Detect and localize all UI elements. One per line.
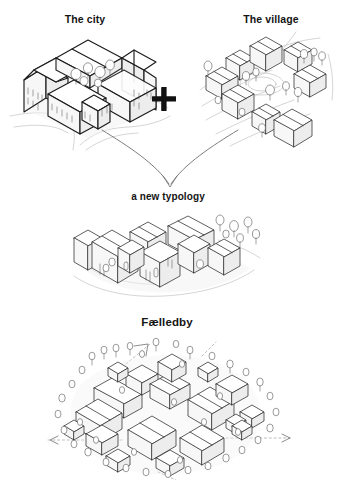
illustration-faelledby <box>30 334 310 480</box>
label-a-new-typology: a new typology <box>131 191 205 202</box>
down-arrow-icon <box>100 126 240 190</box>
plus-icon <box>150 85 178 113</box>
illustration-a-new-typology <box>68 206 268 304</box>
label-the-city: The city <box>65 13 105 25</box>
label-the-village: The village <box>243 13 298 25</box>
label-faelledby: Fælledby <box>141 316 192 328</box>
